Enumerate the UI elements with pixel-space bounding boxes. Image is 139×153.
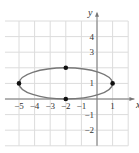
svg-text:−2: −2: [84, 125, 94, 135]
svg-text:−1: −1: [84, 110, 94, 120]
svg-text:−5: −5: [14, 101, 24, 111]
svg-text:−3: −3: [45, 101, 55, 111]
ellipse-graph: xy−5−4−3−2−11431−1−2: [0, 0, 139, 153]
grid: [5, 21, 128, 146]
svg-text:3: 3: [90, 47, 95, 57]
svg-text:−4: −4: [30, 101, 40, 111]
svg-text:y: y: [87, 7, 93, 18]
svg-text:1: 1: [90, 78, 95, 88]
svg-text:4: 4: [90, 32, 95, 42]
svg-text:−2: −2: [61, 101, 71, 111]
axes: [5, 12, 134, 146]
svg-text:1: 1: [110, 101, 115, 111]
svg-text:x: x: [135, 99, 139, 110]
tick-labels: xy−5−4−3−2−11431−1−2: [14, 7, 139, 135]
